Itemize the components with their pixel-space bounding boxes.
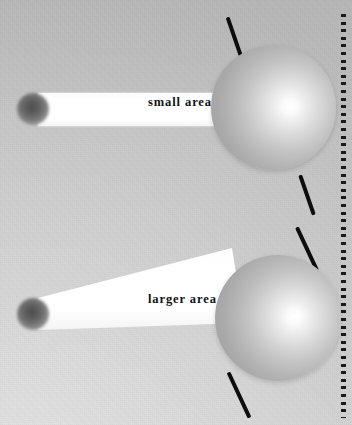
- light-beam-wedge-shape: [38, 248, 244, 330]
- scene-small-area: small area: [0, 0, 352, 213]
- label-larger-area: larger area: [148, 292, 217, 307]
- sphere-small-area: [211, 45, 336, 170]
- diagram-canvas: small area: [0, 0, 352, 425]
- sphere-larger-area: [215, 255, 341, 381]
- scene-larger-area: larger area: [0, 213, 352, 425]
- dotted-vertical-rule: [341, 14, 346, 418]
- rotation-axis-icon-top-lower: [298, 174, 316, 215]
- light-source-core: [17, 93, 49, 125]
- light-source-larger-area: [10, 291, 56, 337]
- light-source-small-area: [10, 86, 56, 132]
- label-small-area: small area: [148, 95, 212, 110]
- light-source-core: [17, 298, 49, 330]
